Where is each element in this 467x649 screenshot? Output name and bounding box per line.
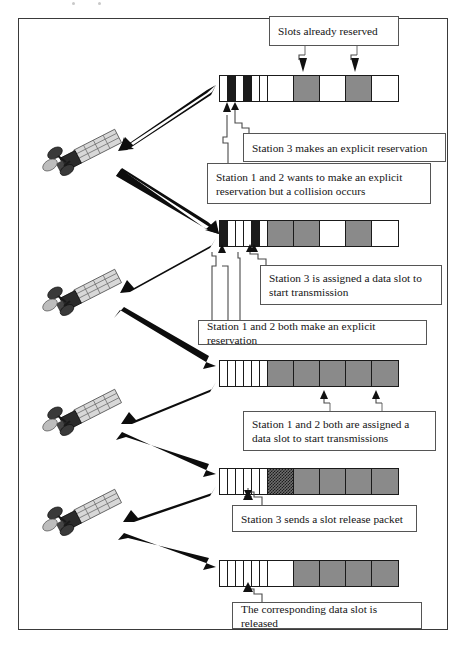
- arrow-downlink-2: [120, 238, 216, 293]
- arrow-uplink-3: [116, 432, 216, 477]
- arrow-uplink-1: [116, 168, 219, 234]
- arrow-uplink-4: [118, 533, 216, 570]
- satellite-icon-3: [41, 389, 122, 438]
- arrow-downlink-3: [121, 382, 216, 424]
- satellite-icon-2: [41, 269, 122, 318]
- leader-station3-explicit-reservation: [231, 102, 249, 133]
- satellite-icon-1: [41, 129, 122, 178]
- leader-station12-both-reserve: [212, 244, 258, 320]
- arrow-downlink-1: [118, 85, 216, 151]
- leader-station3-assigned-slot: [246, 244, 266, 265]
- satellite-icon-4: [41, 489, 122, 538]
- arrow-uplink-2: [114, 307, 216, 369]
- arrow-downlink-4: [123, 486, 216, 522]
- leader-station12-collision: [223, 102, 231, 163]
- leader-station12-both-assigned: [320, 390, 382, 411]
- leader-slot-released: [243, 582, 262, 602]
- leader-slots-already-reserved: [299, 46, 359, 72]
- overlay-graphics: [0, 0, 467, 649]
- diagram-stage: Slots already reserved Station 3 makes a…: [0, 0, 467, 649]
